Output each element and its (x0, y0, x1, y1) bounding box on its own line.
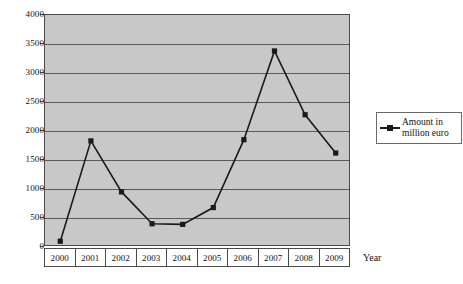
x-axis-tick-label: 2004 (167, 249, 198, 266)
data-point-marker (180, 222, 185, 227)
legend-marker-icon (380, 121, 400, 135)
x-axis-tick-label: 2007 (259, 249, 290, 266)
chart-legend: Amount in million euro (376, 112, 462, 144)
y-axis-tick-label: 2000 (8, 126, 44, 135)
legend-label-line1: Amount in (402, 117, 449, 128)
y-axis-tick-mark (40, 246, 44, 247)
y-axis-tick-label: 4000 (8, 10, 44, 19)
x-axis-tick-label: 2003 (137, 249, 168, 266)
data-point-marker (303, 112, 308, 117)
y-axis-tick-label: 1500 (8, 155, 44, 164)
x-axis: 2000200120022003200420052006200720082009 (44, 248, 350, 267)
x-axis-title: Year (363, 252, 381, 263)
legend-label: Amount in million euro (400, 117, 449, 139)
y-axis-tick-label: 500 (8, 213, 44, 222)
y-axis-tick-label: 2500 (8, 97, 44, 106)
x-axis-tick-label: 2006 (228, 249, 259, 266)
data-point-marker (272, 48, 277, 53)
data-point-marker (88, 138, 93, 143)
y-axis-tick-label: 1000 (8, 184, 44, 193)
x-axis-tick-label: 2001 (76, 249, 107, 266)
data-point-marker (58, 239, 63, 244)
data-series-layer (45, 15, 351, 247)
x-axis-tick-label: 2000 (45, 249, 76, 266)
data-point-marker (119, 189, 124, 194)
x-axis-tick-label: 2005 (198, 249, 229, 266)
x-axis-tick-label: 2009 (320, 249, 350, 266)
data-point-marker (150, 221, 155, 226)
legend-label-line2: million euro (402, 128, 449, 139)
y-axis-tick-label: 3000 (8, 68, 44, 77)
data-point-marker (333, 150, 338, 155)
line-chart: 05001000150020002500300035004000 2000200… (0, 0, 463, 284)
x-axis-tick-label: 2002 (106, 249, 137, 266)
y-axis-tick-label: 0 (8, 242, 44, 251)
y-axis: 05001000150020002500300035004000 (0, 14, 44, 246)
plot-area (44, 14, 350, 246)
x-axis-tick-label: 2008 (289, 249, 320, 266)
data-point-marker (241, 137, 246, 142)
y-axis-tick-label: 3500 (8, 39, 44, 48)
series-line (60, 51, 335, 241)
data-point-marker (211, 205, 216, 210)
